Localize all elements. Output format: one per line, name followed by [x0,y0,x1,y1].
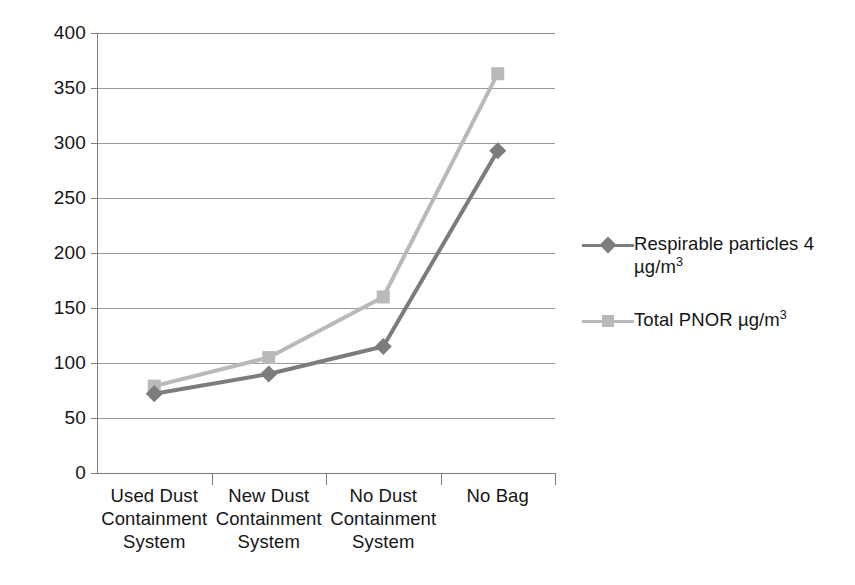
data-point-diamond-marker [375,338,392,355]
legend-marker-square-icon [582,310,634,332]
legend-marker-diamond-icon [582,234,634,256]
line-chart: 050100150200250300350400 Used DustContai… [0,0,855,585]
data-point-square-marker [377,291,390,304]
legend-label-total-pnor: Total PNOR µg/m3 [634,308,787,331]
legend: Respirable particles 4 µg/m3 Total PNOR … [582,232,855,362]
series-line [154,151,498,394]
legend-item-respirable-particles: Respirable particles 4 µg/m3 [582,232,855,278]
data-point-square-marker [491,67,504,80]
legend-item-total-pnor: Total PNOR µg/m3 [582,308,855,332]
data-point-diamond-marker [489,142,506,159]
data-point-square-marker [262,351,275,364]
series-line [154,74,498,386]
data-point-diamond-marker [260,366,277,383]
legend-label-respirable-particles: Respirable particles 4 µg/m3 [634,232,814,278]
